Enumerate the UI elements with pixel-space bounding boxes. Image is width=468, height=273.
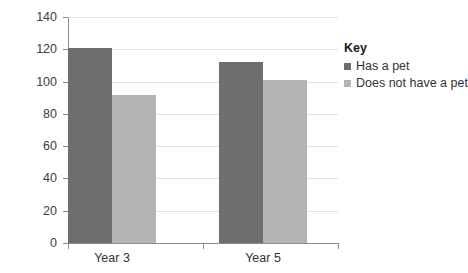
- legend-title: Key: [344, 42, 464, 56]
- legend-item-label: Does not have a pet: [356, 77, 468, 91]
- legend-swatch-icon: [344, 80, 351, 87]
- bar: [112, 95, 156, 244]
- bar: [263, 80, 307, 243]
- y-axis-tick-label: 80: [0, 108, 57, 121]
- x-axis-tick-label: Year 5: [223, 252, 303, 265]
- legend-item: Has a pet: [344, 60, 464, 74]
- x-axis-tick-label: Year 3: [72, 252, 152, 265]
- x-tick-mark: [68, 243, 69, 249]
- y-axis-tick-label: 0: [0, 237, 57, 250]
- y-axis-tick-label: 60: [0, 140, 57, 153]
- plot-area: [68, 17, 338, 243]
- y-axis-tick-label: 100: [0, 76, 57, 89]
- bar: [219, 62, 263, 243]
- y-axis-tick-label: 40: [0, 172, 57, 185]
- x-tick-mark: [338, 243, 339, 249]
- legend: Key Has a petDoes not have a pet: [344, 42, 464, 93]
- y-axis-tick-label: 120: [0, 43, 57, 56]
- bar: [68, 48, 112, 243]
- y-axis-tick-label: 140: [0, 11, 57, 24]
- gridline-140: [68, 17, 338, 18]
- legend-item: Does not have a pet: [344, 77, 464, 91]
- legend-entries: Has a petDoes not have a pet: [344, 60, 464, 91]
- legend-swatch-icon: [344, 63, 351, 70]
- y-axis-tick-label: 20: [0, 205, 57, 218]
- x-tick-mark: [203, 243, 204, 249]
- legend-item-label: Has a pet: [356, 60, 410, 74]
